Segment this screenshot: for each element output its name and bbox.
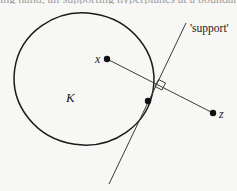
- point-x-dot: [104, 56, 110, 62]
- tangent-point-dot: [145, 98, 151, 104]
- label-z: z: [218, 107, 224, 121]
- point-z-dot: [210, 110, 216, 116]
- label-support: 'support': [190, 22, 229, 35]
- convex-support-diagram: x z K 'support': [0, 0, 237, 191]
- label-k: K: [65, 90, 76, 105]
- label-x: x: [94, 52, 101, 66]
- convex-body-outline: [5, 4, 162, 154]
- diagram-canvas: ing hand, all supporting hyperplanes at …: [0, 0, 237, 191]
- segment-x-to-z: [107, 59, 213, 113]
